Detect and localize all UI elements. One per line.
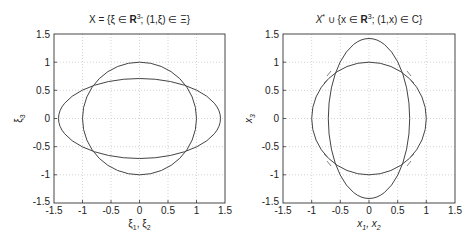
svg-text:1: 1 (44, 57, 50, 68)
svg-text:-1: -1 (307, 205, 316, 216)
svg-text:-1: -1 (270, 169, 279, 180)
svg-text:1.5: 1.5 (218, 205, 232, 216)
svg-text:0: 0 (137, 205, 143, 216)
svg-text:-1: -1 (78, 205, 87, 216)
left-chart-title: X = {ξ ∈ R3; (1,ξ) ∈ Ξ} (89, 13, 191, 26)
svg-text:-1.5: -1.5 (274, 205, 292, 216)
svg-text:-0.5: -0.5 (262, 141, 280, 152)
left-x-tick-labels: -1.5 -1 -0.5 0 0.5 1 1.5 (45, 205, 232, 216)
left-x-axis-label: ξ1, ξ2 (128, 218, 150, 231)
svg-text:0: 0 (273, 113, 279, 124)
svg-text:-0.5: -0.5 (33, 141, 51, 152)
right-grid (283, 34, 455, 203)
svg-text:1: 1 (194, 205, 200, 216)
svg-text:-1.5: -1.5 (45, 205, 63, 216)
right-chart: 1.5 1 0.5 0 -0.5 -1 -1.5 -1.5 -1 -0.5 0 … (243, 13, 462, 231)
left-grid (54, 34, 225, 203)
svg-text:0.5: 0.5 (161, 205, 175, 216)
svg-text:1.5: 1.5 (36, 29, 50, 40)
svg-text:1.5: 1.5 (448, 205, 462, 216)
svg-text:-1: -1 (41, 169, 50, 180)
svg-text:0: 0 (44, 113, 50, 124)
svg-text:1.5: 1.5 (265, 29, 279, 40)
svg-text:-0.5: -0.5 (332, 205, 350, 216)
figure: 1.5 1 0.5 0 -0.5 -1 -1.5 -1.5 -1 -0.5 0 … (0, 0, 469, 242)
svg-text:1: 1 (424, 205, 430, 216)
right-x-tick-labels: -1.5 -1 -0.5 0 0.5 1 1.5 (274, 205, 462, 216)
right-chart-title: X* ∪ {x ∈ R3; (1,x) ∈ C} (315, 13, 423, 25)
right-y-axis-label: x3 (243, 114, 256, 124)
right-x-axis-label: x1, x2 (356, 218, 380, 231)
svg-text:1: 1 (273, 57, 279, 68)
svg-text:0: 0 (366, 205, 372, 216)
svg-text:0.5: 0.5 (265, 85, 279, 96)
svg-text:0.5: 0.5 (36, 85, 50, 96)
left-y-axis-label: ξ3 (13, 114, 26, 122)
left-y-tick-labels: 1.5 1 0.5 0 -0.5 -1 -1.5 (33, 29, 51, 207)
svg-text:-0.5: -0.5 (102, 205, 120, 216)
svg-text:0.5: 0.5 (391, 205, 405, 216)
left-chart: 1.5 1 0.5 0 -0.5 -1 -1.5 -1.5 -1 -0.5 0 … (13, 13, 232, 231)
right-y-tick-labels: 1.5 1 0.5 0 -0.5 -1 -1.5 (262, 29, 280, 207)
